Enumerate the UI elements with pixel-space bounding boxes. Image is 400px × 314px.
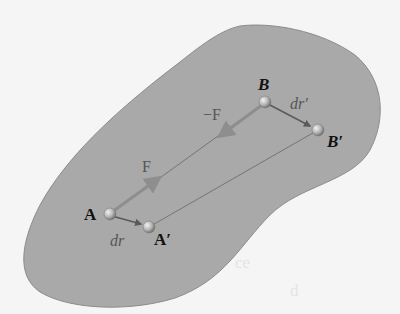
label-F: F <box>142 158 151 175</box>
label-A-prime: A′ <box>154 230 171 249</box>
particle-A <box>104 208 116 220</box>
rigid-body-diagram: ental in de ting in ent ely foll rce n c… <box>0 0 400 314</box>
svg-text:ce: ce <box>235 253 250 272</box>
svg-text:d: d <box>290 281 299 300</box>
rigid-body <box>24 25 381 307</box>
particle-B <box>259 96 271 108</box>
label-neg-F: −F <box>203 106 221 123</box>
label-A: A <box>84 205 97 224</box>
label-dr: dr <box>110 232 125 249</box>
diagram-canvas: ental in de ting in ent ely foll rce n c… <box>0 0 400 314</box>
label-B-prime: B′ <box>326 132 343 151</box>
label-B: B <box>257 75 269 94</box>
label-dr-prime: dr′ <box>290 95 308 112</box>
particle-B-prime <box>312 124 324 136</box>
